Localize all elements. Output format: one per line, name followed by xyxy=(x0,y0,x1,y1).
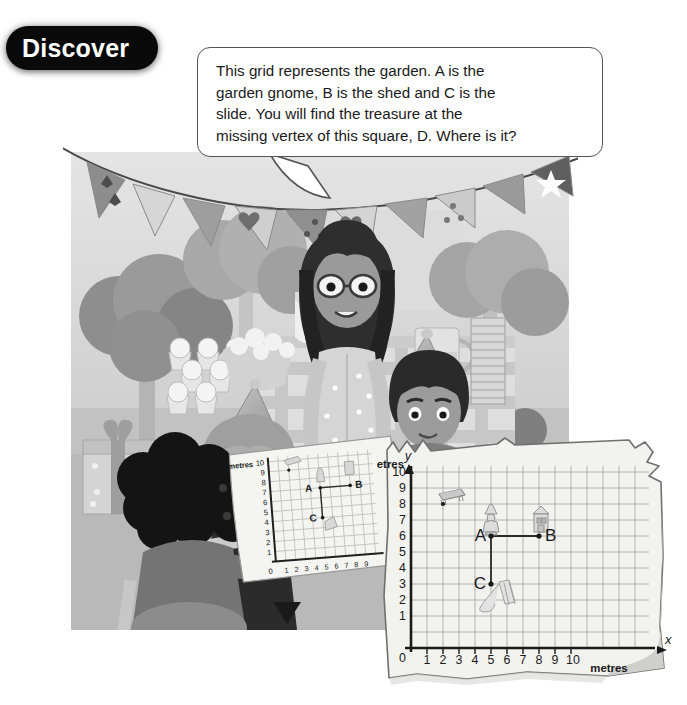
point-label-b: B xyxy=(545,526,556,545)
point-label-a: A xyxy=(475,526,487,545)
svg-text:1: 1 xyxy=(399,609,406,623)
svg-text:6: 6 xyxy=(399,529,406,543)
speech-bubble-tail xyxy=(268,152,338,202)
svg-text:9: 9 xyxy=(399,481,406,495)
svg-text:A: A xyxy=(305,482,313,494)
svg-text:10: 10 xyxy=(566,653,580,667)
svg-text:3: 3 xyxy=(399,577,406,591)
svg-text:4: 4 xyxy=(314,563,319,572)
svg-text:6: 6 xyxy=(263,498,268,507)
page-root: Discover This grid represents the garden… xyxy=(0,0,687,705)
point-a xyxy=(488,533,493,538)
svg-text:9: 9 xyxy=(552,653,559,667)
svg-text:8: 8 xyxy=(399,497,406,511)
svg-text:B: B xyxy=(355,478,363,490)
svg-text:C: C xyxy=(309,512,317,524)
svg-text:5: 5 xyxy=(488,653,495,667)
svg-text:8: 8 xyxy=(536,653,543,667)
point-b xyxy=(536,533,541,538)
speech-line: This grid represents the garden. A is th… xyxy=(216,60,586,82)
svg-text:3: 3 xyxy=(265,528,270,537)
svg-text:3: 3 xyxy=(304,564,309,573)
svg-text:7: 7 xyxy=(520,653,527,667)
svg-text:2: 2 xyxy=(399,593,406,607)
svg-text:8: 8 xyxy=(354,560,359,569)
svg-text:3: 3 xyxy=(456,653,463,667)
svg-text:5: 5 xyxy=(324,562,329,571)
speech-line: slide. You will find the treasure at the xyxy=(216,103,586,125)
svg-text:9: 9 xyxy=(364,559,369,568)
svg-text:5: 5 xyxy=(399,545,406,559)
svg-text:4: 4 xyxy=(472,653,479,667)
origin-label: 0 xyxy=(399,651,406,665)
speech-line: garden gnome, B is the shed and C is the xyxy=(216,82,586,104)
svg-text:1: 1 xyxy=(424,653,431,667)
main-grid-paper: y x metres metres 10 9 8 7 6 5 4 3 2 1 0 xyxy=(377,436,680,688)
svg-text:7: 7 xyxy=(399,513,406,527)
svg-text:0: 0 xyxy=(268,567,273,576)
speech-line: missing vertex of this square, D. Where … xyxy=(216,125,586,147)
svg-text:6: 6 xyxy=(334,562,339,571)
svg-text:4: 4 xyxy=(399,561,406,575)
point-bench xyxy=(441,502,445,506)
svg-text:10: 10 xyxy=(255,458,264,468)
svg-text:5: 5 xyxy=(263,508,268,517)
svg-text:2: 2 xyxy=(294,565,299,574)
speech-bubble-text: This grid represents the garden. A is th… xyxy=(216,60,586,146)
point-c xyxy=(488,581,493,586)
svg-text:10: 10 xyxy=(392,465,406,479)
svg-text:1: 1 xyxy=(284,566,289,575)
cup-stack-icon xyxy=(471,318,505,404)
discover-badge: Discover xyxy=(6,26,158,70)
discover-badge-label: Discover xyxy=(22,34,129,63)
svg-text:8: 8 xyxy=(261,478,266,487)
svg-text:7: 7 xyxy=(262,488,267,497)
svg-text:1: 1 xyxy=(267,548,272,557)
svg-text:2: 2 xyxy=(266,538,271,547)
svg-text:2: 2 xyxy=(440,653,447,667)
svg-text:4: 4 xyxy=(264,518,269,527)
x-axis-label: metres xyxy=(590,662,627,674)
point-label-c: C xyxy=(474,574,486,593)
svg-text:6: 6 xyxy=(504,653,511,667)
speech-bubble: This grid represents the garden. A is th… xyxy=(197,47,603,157)
svg-text:7: 7 xyxy=(344,561,349,570)
x-axis-name: x xyxy=(664,632,672,647)
svg-text:9: 9 xyxy=(260,468,265,477)
